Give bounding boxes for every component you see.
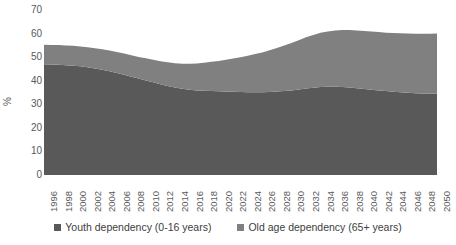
x-axis-tick-label: 2048 xyxy=(427,191,437,212)
x-axis-tick-label: 2024 xyxy=(253,191,263,212)
stacked-area-chart: % 706050403020100 1996199820002002200420… xyxy=(0,0,456,245)
legend-swatch-youth xyxy=(54,224,61,231)
plot-area xyxy=(44,10,437,175)
x-axis-tick-label: 2006 xyxy=(122,191,132,212)
chart-legend: Youth dependency (0-16 years)Old age dep… xyxy=(0,221,456,233)
x-axis-tick-label: 2040 xyxy=(369,191,379,212)
x-axis-tick-label: 1996 xyxy=(49,191,59,212)
x-axis-tick-label: 2050 xyxy=(442,191,452,212)
x-axis-tick-label: 2046 xyxy=(413,191,423,212)
x-axis-tick-label: 2042 xyxy=(384,191,394,212)
x-axis-tick-label: 2022 xyxy=(238,191,248,212)
x-axis-tick-label: 2034 xyxy=(326,191,336,212)
x-axis-tick-label: 2028 xyxy=(282,191,292,212)
x-axis-tick-labels: 1996199820002002200420062008201020122014… xyxy=(44,176,437,216)
y-axis-tick-label: 60 xyxy=(16,29,42,39)
x-axis-tick-label: 2010 xyxy=(151,191,161,212)
legend-item[interactable]: Youth dependency (0-16 years) xyxy=(54,221,211,233)
y-axis-tick-label: 0 xyxy=(16,170,42,180)
x-axis-tick-label: 2004 xyxy=(107,191,117,212)
x-axis-tick-label: 2032 xyxy=(311,191,321,212)
y-axis-tick-label: 30 xyxy=(16,99,42,109)
x-axis-tick-label: 2030 xyxy=(296,191,306,212)
legend-label: Old age dependency (65+ years) xyxy=(248,221,401,233)
y-axis-tick-label: 10 xyxy=(16,146,42,156)
x-axis-tick-label: 2036 xyxy=(340,191,350,212)
y-axis-tick-label: 40 xyxy=(16,76,42,86)
x-axis-tick-label: 2026 xyxy=(267,191,277,212)
x-axis-tick-label: 2014 xyxy=(180,191,190,212)
x-axis-tick-label: 2012 xyxy=(165,191,175,212)
plot-svg xyxy=(44,10,437,175)
x-axis-tick-label: 2044 xyxy=(398,191,408,212)
x-axis-tick-label: 2038 xyxy=(355,191,365,212)
x-axis-tick-label: 2008 xyxy=(136,191,146,212)
y-axis-tick-labels: 706050403020100 xyxy=(12,0,42,245)
legend-item[interactable]: Old age dependency (65+ years) xyxy=(237,221,401,233)
x-axis-tick-label: 2002 xyxy=(93,191,103,212)
x-axis-tick-label: 1998 xyxy=(64,191,74,212)
x-axis-tick-label: 2000 xyxy=(78,191,88,212)
y-axis-tick-label: 50 xyxy=(16,52,42,62)
x-axis-tick-label: 2020 xyxy=(224,191,234,212)
y-axis-tick-label: 70 xyxy=(16,5,42,15)
legend-swatch-oldage xyxy=(237,224,244,231)
x-axis-tick-label: 2018 xyxy=(209,191,219,212)
legend-label: Youth dependency (0-16 years) xyxy=(65,221,211,233)
y-axis-tick-label: 20 xyxy=(16,123,42,133)
x-axis-tick-label: 2016 xyxy=(195,191,205,212)
